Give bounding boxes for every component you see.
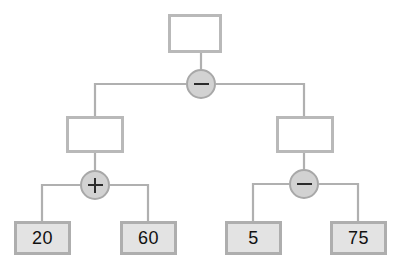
leaf-operand-2-value: 60 bbox=[138, 229, 159, 247]
leaf-operand-3[interactable]: 5 bbox=[225, 221, 282, 255]
leaf-operand-3-value: 5 bbox=[248, 229, 259, 247]
edge-root-op-left-branch bbox=[95, 84, 186, 116]
plus-icon bbox=[88, 178, 103, 193]
root-result-box[interactable] bbox=[168, 14, 222, 53]
minus-icon bbox=[194, 83, 209, 85]
minus-icon bbox=[297, 183, 312, 185]
edge-left-op-to-leaf-2 bbox=[110, 185, 148, 221]
leaf-operand-1[interactable]: 20 bbox=[14, 221, 71, 255]
expression-tree-diagram: 20 60 5 75 bbox=[0, 0, 403, 267]
right-subtotal-box[interactable] bbox=[276, 116, 334, 153]
root-operator-minus[interactable] bbox=[186, 69, 216, 99]
edge-left-op-to-leaf-1 bbox=[42, 185, 80, 221]
leaf-operand-4[interactable]: 75 bbox=[330, 221, 387, 255]
edge-right-op-to-leaf-4 bbox=[319, 184, 358, 221]
left-operator-plus[interactable] bbox=[80, 170, 110, 200]
leaf-operand-4-value: 75 bbox=[348, 229, 369, 247]
leaf-operand-1-value: 20 bbox=[32, 229, 53, 247]
left-subtotal-box[interactable] bbox=[66, 116, 124, 153]
leaf-operand-2[interactable]: 60 bbox=[120, 221, 177, 255]
edge-right-op-to-leaf-3 bbox=[253, 184, 289, 221]
edge-root-op-right-branch bbox=[216, 84, 304, 116]
right-operator-minus[interactable] bbox=[289, 169, 319, 199]
